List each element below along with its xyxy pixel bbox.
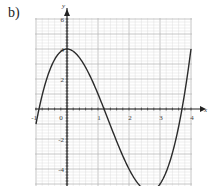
y-tick-label: -2 (58, 136, 64, 144)
y-axis-arrow-icon (64, 9, 70, 16)
x-tick-label: 2 (128, 114, 132, 122)
x-tick-label: 1 (97, 114, 101, 122)
x-tick-label: 3 (159, 114, 163, 122)
y-tick-label: 2 (61, 76, 65, 84)
x-tick-label: 0 (59, 114, 63, 122)
y-tick-label: 6 (61, 16, 65, 24)
y-tick-label: -4 (58, 166, 64, 174)
cubic-graph: xy-101234642-2-4 (0, 0, 209, 186)
x-axis-label: x (203, 106, 208, 114)
y-axis-label: y (61, 2, 66, 10)
x-tick-label: 4 (190, 114, 194, 122)
